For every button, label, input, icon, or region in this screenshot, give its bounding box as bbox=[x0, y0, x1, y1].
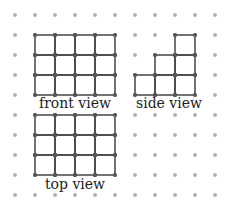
grid-dot bbox=[213, 53, 217, 57]
vertex-dot bbox=[33, 53, 37, 57]
grid-dot bbox=[133, 173, 137, 177]
vertex-dot bbox=[33, 33, 37, 37]
grid-dot bbox=[213, 173, 217, 177]
grid-dot bbox=[153, 113, 157, 117]
grid-dot bbox=[193, 13, 197, 17]
grid-dot bbox=[153, 193, 157, 197]
vertex-dot bbox=[73, 73, 77, 77]
grid-dot bbox=[193, 133, 197, 137]
vertex-dot bbox=[153, 53, 157, 57]
grid-dot bbox=[13, 153, 17, 157]
grid-dot bbox=[213, 113, 217, 117]
grid-dot bbox=[173, 173, 177, 177]
vertex-dot bbox=[193, 73, 197, 77]
grid-dot bbox=[153, 33, 157, 37]
grid-dot bbox=[13, 33, 17, 37]
cell bbox=[55, 115, 75, 135]
side-view-label: side view bbox=[136, 95, 202, 111]
grid-dot bbox=[13, 73, 17, 77]
grid-dot bbox=[93, 13, 97, 17]
vertex-dot bbox=[53, 53, 57, 57]
vertex-dot bbox=[53, 33, 57, 37]
grid-dot bbox=[133, 153, 137, 157]
grid-dot bbox=[173, 13, 177, 17]
cell bbox=[75, 155, 95, 175]
vertex-dot bbox=[193, 53, 197, 57]
vertex-dot bbox=[33, 113, 37, 117]
cell bbox=[95, 115, 115, 135]
grid-dot bbox=[173, 133, 177, 137]
grid-dot bbox=[133, 53, 137, 57]
grid-dot bbox=[193, 173, 197, 177]
top-view-label: top view bbox=[45, 176, 105, 192]
cell bbox=[75, 35, 95, 55]
vertex-dot bbox=[73, 153, 77, 157]
grid-dot bbox=[13, 13, 17, 17]
grid-dot bbox=[193, 113, 197, 117]
vertex-dot bbox=[113, 113, 117, 117]
vertex-dot bbox=[93, 113, 97, 117]
vertex-dot bbox=[113, 93, 117, 97]
grid-dot bbox=[133, 113, 137, 117]
grid-dot bbox=[73, 13, 77, 17]
cell bbox=[175, 35, 195, 55]
grid-dot bbox=[53, 193, 57, 197]
cell bbox=[55, 55, 75, 75]
vertex-dot bbox=[113, 133, 117, 137]
vertex-dot bbox=[113, 73, 117, 77]
vertex-dot bbox=[93, 153, 97, 157]
grid-dot bbox=[53, 13, 57, 17]
vertex-dot bbox=[33, 153, 37, 157]
vertex-dot bbox=[73, 133, 77, 137]
cell bbox=[175, 55, 195, 75]
grid-dot bbox=[13, 133, 17, 137]
grid-dot bbox=[173, 193, 177, 197]
vertex-dot bbox=[33, 133, 37, 137]
vertex-dot bbox=[93, 133, 97, 137]
grid-dot bbox=[33, 193, 37, 197]
grid-dot bbox=[33, 13, 37, 17]
grid-dot bbox=[193, 153, 197, 157]
vertex-dot bbox=[33, 173, 37, 177]
grid-dot bbox=[153, 153, 157, 157]
grid-dot bbox=[213, 153, 217, 157]
grid-dot bbox=[13, 193, 17, 197]
cell bbox=[55, 35, 75, 55]
cell bbox=[55, 135, 75, 155]
grid-dot bbox=[153, 173, 157, 177]
vertex-dot bbox=[113, 53, 117, 57]
vertex-dot bbox=[173, 73, 177, 77]
grid-dot bbox=[213, 33, 217, 37]
grid-dot bbox=[213, 13, 217, 17]
grid-dot bbox=[173, 113, 177, 117]
cell bbox=[55, 75, 75, 95]
grid-dot bbox=[13, 93, 17, 97]
cell bbox=[35, 135, 55, 155]
grid-dot bbox=[13, 113, 17, 117]
cell bbox=[95, 55, 115, 75]
vertex-dot bbox=[173, 33, 177, 37]
vertex-dot bbox=[173, 53, 177, 57]
vertex-dot bbox=[113, 153, 117, 157]
vertex-dot bbox=[113, 173, 117, 177]
front-view-shape bbox=[33, 33, 117, 97]
cell bbox=[35, 115, 55, 135]
cell bbox=[155, 75, 175, 95]
grid-dot bbox=[213, 193, 217, 197]
grid-dot bbox=[193, 193, 197, 197]
grid-dot bbox=[133, 33, 137, 37]
vertex-dot bbox=[153, 73, 157, 77]
vertex-dot bbox=[93, 33, 97, 37]
cell bbox=[95, 35, 115, 55]
grid-dot bbox=[213, 93, 217, 97]
vertex-dot bbox=[73, 33, 77, 37]
vertex-dot bbox=[53, 73, 57, 77]
cell bbox=[75, 75, 95, 95]
cell bbox=[35, 75, 55, 95]
cell bbox=[75, 135, 95, 155]
grid-dot bbox=[173, 153, 177, 157]
cell bbox=[95, 135, 115, 155]
grid-dot bbox=[13, 53, 17, 57]
vertex-dot bbox=[53, 113, 57, 117]
grid-dot bbox=[93, 193, 97, 197]
